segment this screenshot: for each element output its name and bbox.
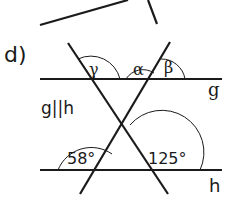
transversal-descending <box>68 43 168 194</box>
part-label: d) <box>4 42 27 67</box>
line-label-g: g <box>208 79 220 100</box>
angle-label-58: 58° <box>67 149 95 168</box>
angle-label-alpha: α <box>133 60 144 79</box>
previous-figure-fragment <box>40 0 157 25</box>
line-label-h: h <box>209 175 220 196</box>
angle-label-beta: β <box>164 58 173 77</box>
angle-label-gamma: γ <box>89 60 99 79</box>
angle-label-125: 125° <box>148 149 187 168</box>
geometry-diagram: d) γ α β g g||h 58° 125° h <box>0 0 230 198</box>
parallel-note: g||h <box>41 98 74 118</box>
